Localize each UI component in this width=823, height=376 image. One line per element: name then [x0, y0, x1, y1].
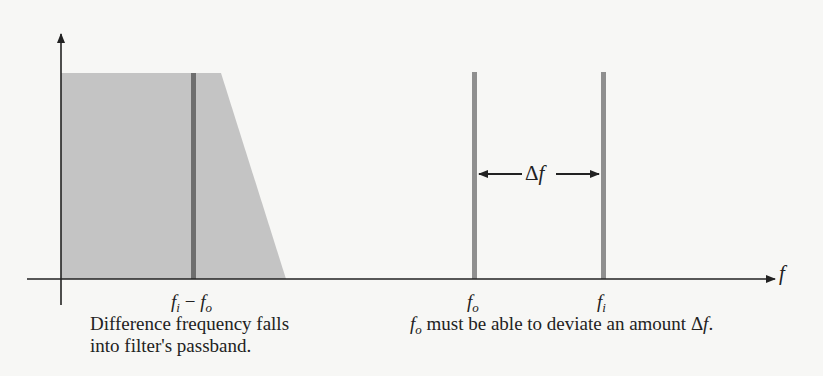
x-axis-label: f — [779, 263, 785, 284]
fi-line — [601, 72, 606, 279]
caption-period: . — [708, 313, 713, 334]
fo-line — [472, 72, 477, 279]
caption-delta: Δ — [691, 313, 703, 334]
fo-label: fo — [467, 292, 479, 311]
delta-f-symbol: f — [539, 161, 545, 185]
delta-f-label: Δf — [525, 163, 544, 184]
difference-frequency-label: fi − fo — [171, 292, 212, 311]
caption-text: must be able to deviate an amount — [422, 313, 691, 334]
minus-sign: − — [180, 291, 200, 312]
difference-caption-line2: into filter's passband. — [90, 335, 289, 357]
delta-symbol: Δ — [525, 161, 539, 185]
deviation-caption: fo must be able to deviate an amount Δf. — [410, 313, 713, 335]
difference-caption-line1: Difference frequency falls — [90, 313, 289, 335]
difference-frequency-line — [191, 73, 196, 279]
fi-label: fi — [597, 292, 606, 311]
difference-caption: Difference frequency falls into filter's… — [90, 313, 289, 357]
filter-passband — [61, 73, 286, 279]
